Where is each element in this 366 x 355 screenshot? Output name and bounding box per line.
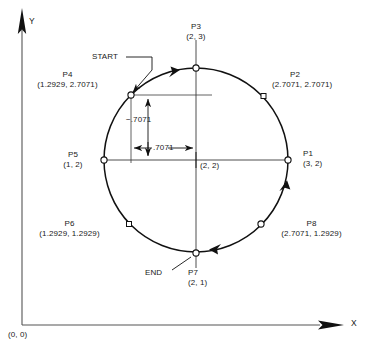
point-label-p3-coord: (2, 3) (172, 32, 220, 42)
point-label-p8: P8 (2.7071, 1.2929) (264, 219, 359, 239)
point-label-p5: P5 (1, 2) (51, 150, 95, 170)
end-label: END (145, 268, 162, 278)
point-label-p4: P4 (1.2929, 2.7071) (20, 70, 115, 90)
point-label-p8-name: P8 (264, 219, 359, 229)
marker-p2[interactable] (261, 94, 266, 99)
point-label-p5-name: P5 (51, 150, 95, 160)
point-label-p7: P7 (2, 1) (188, 268, 207, 288)
y-axis-label: Y (29, 16, 35, 26)
start-label: START (92, 52, 118, 62)
point-label-p1-name: P1 (303, 149, 322, 159)
marker-p5[interactable] (101, 157, 107, 163)
point-label-p6-coord: (1.2929, 1.2929) (22, 229, 117, 239)
point-label-p1: P1 (3, 2) (303, 149, 322, 169)
origin-label: (0, 0) (8, 330, 27, 340)
point-label-p2: P2 (2.7071, 2.7071) (272, 70, 332, 90)
point-label-p5-coord: (1, 2) (51, 160, 95, 170)
start-leader (126, 57, 152, 92)
marker-p4[interactable] (128, 92, 134, 98)
point-label-p3: P3 (2, 3) (172, 22, 220, 42)
vertical-dimension-label: −.7071 (126, 115, 151, 125)
point-label-p2-coord: (2.7071, 2.7071) (272, 80, 332, 90)
diagram-canvas: Y X (0, 0) (2, 2) START END −.7071 .7071… (0, 0, 366, 355)
point-label-p2-name: P2 (290, 70, 332, 80)
point-label-p6: P6 (1.2929, 1.2929) (22, 219, 117, 239)
marker-p6[interactable] (127, 222, 132, 227)
point-label-p7-coord: (2, 1) (188, 278, 207, 288)
horizontal-dimension-label: .7071 (153, 143, 174, 153)
point-label-p7-name: P7 (188, 268, 207, 278)
circle-interpolation-drawing (0, 0, 366, 355)
point-label-p1-coord: (3, 2) (303, 159, 322, 169)
x-axis-label: X (351, 318, 357, 328)
point-label-p6-name: P6 (22, 219, 117, 229)
marker-p3[interactable] (193, 65, 199, 71)
point-label-p4-coord: (1.2929, 2.7071) (20, 80, 115, 90)
point-label-p4-name: P4 (20, 70, 115, 80)
center-coordinate-label: (2, 2) (200, 161, 219, 171)
marker-p7[interactable] (193, 250, 199, 256)
x-axis-arrowhead (318, 321, 344, 330)
point-label-p8-coord: (2.7071, 1.2929) (264, 229, 359, 239)
point-label-p3-name: P3 (172, 22, 220, 32)
marker-p1[interactable] (285, 157, 291, 163)
